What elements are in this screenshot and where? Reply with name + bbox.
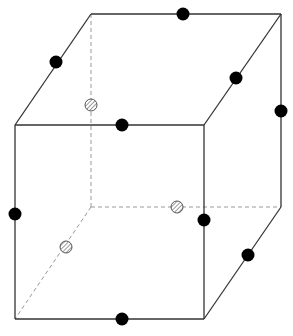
solid-points — [9, 8, 288, 326]
hatched-point-icon — [171, 201, 183, 213]
solid-point-icon — [230, 72, 243, 85]
solid-point-icon — [198, 214, 211, 227]
edge-bottom-right-diagonal — [204, 207, 281, 319]
edge-top-right-diagonal — [204, 14, 281, 125]
solid-point-icon — [50, 56, 63, 69]
cube-diagram — [0, 0, 293, 336]
solid-point-icon — [9, 208, 22, 221]
hatched-point-icon — [85, 99, 97, 111]
hidden-edge-bottom-left-diagonal — [15, 207, 91, 319]
solid-point-icon — [177, 8, 190, 21]
edge-top-left-diagonal — [15, 14, 91, 125]
solid-point-icon — [275, 105, 288, 118]
solid-point-icon — [242, 249, 255, 262]
solid-point-icon — [116, 119, 129, 132]
hatched-point-icon — [60, 241, 72, 253]
solid-point-icon — [116, 313, 129, 326]
